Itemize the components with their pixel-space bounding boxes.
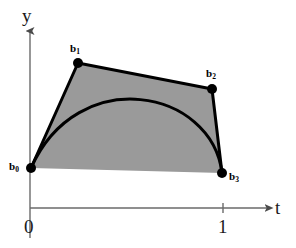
tick-label-1: 1 <box>218 217 228 236</box>
control-point-label-b3: b3 <box>229 171 239 182</box>
tick-label-0: 0 <box>24 217 34 236</box>
y-axis-label: y <box>22 6 32 25</box>
control-point-b3-dot[interactable] <box>217 168 227 178</box>
control-polygon-group <box>31 63 222 173</box>
control-point-label-b2-sub: 2 <box>212 72 216 81</box>
control-point-b1-dot[interactable] <box>73 58 83 68</box>
t-axis-label: t <box>275 198 280 217</box>
control-point-label-b0-sub: 0 <box>15 165 19 174</box>
control-point-label-b0: b0 <box>9 161 19 172</box>
control-point-b2-dot[interactable] <box>207 84 217 94</box>
control-point-label-b2: b2 <box>206 68 216 79</box>
bezier-figure: y t 0 1 b0 b1 b2 b3 <box>0 0 296 248</box>
control-point-label-b1: b1 <box>70 43 80 54</box>
control-point-label-b3-sub: 3 <box>235 175 239 184</box>
control-point-b0-dot[interactable] <box>26 163 36 173</box>
bezier-diagram-svg <box>0 0 296 248</box>
control-point-label-b1-sub: 1 <box>76 47 80 56</box>
control-polygon-fill <box>31 63 222 173</box>
